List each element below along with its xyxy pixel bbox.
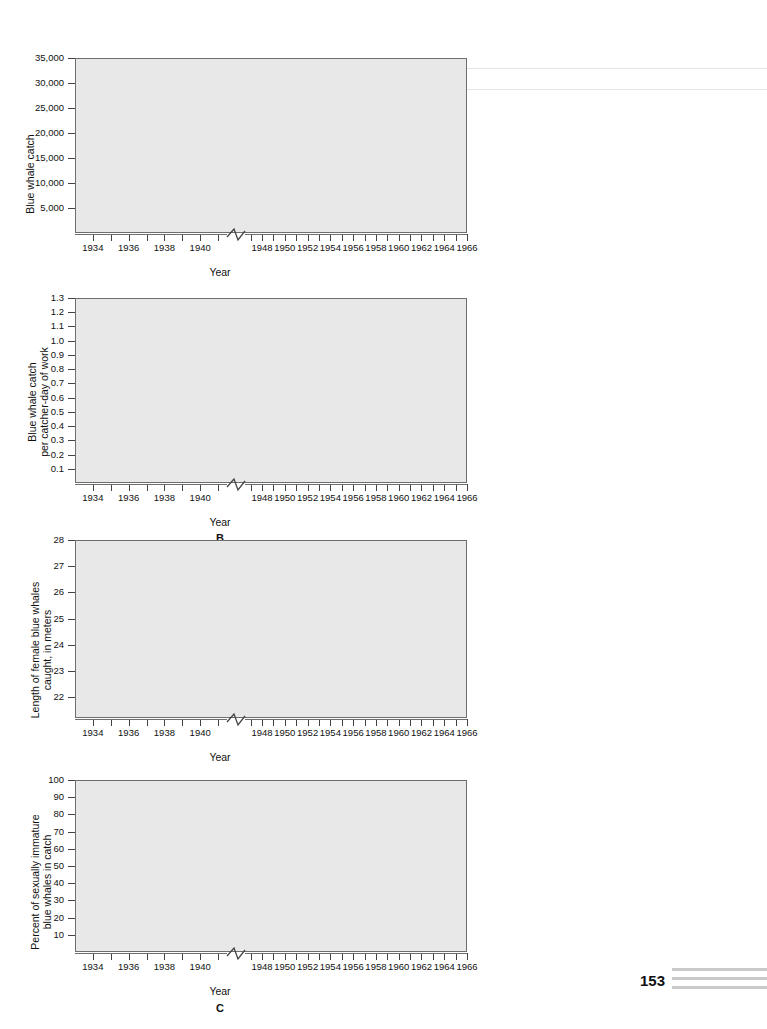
x-tick (308, 234, 309, 241)
y-tick-label: 40 (0, 878, 64, 888)
y-tick-label: 0.2 (0, 450, 64, 460)
x-tick-label-1966: 1966 (451, 493, 483, 503)
x-tick (433, 484, 434, 491)
x-tick (147, 234, 148, 241)
x-tick (433, 953, 434, 960)
x-tick (111, 719, 112, 726)
y-tick (68, 935, 75, 936)
x-tick (353, 484, 354, 491)
y-tick-label: 1.2 (0, 307, 64, 317)
y-tick (68, 208, 75, 209)
x-tick (164, 953, 165, 960)
figure-page: Blue whale catch 5,00010,00015,00020,000… (0, 0, 767, 1029)
x-tick (410, 484, 411, 491)
y-tick (68, 369, 75, 370)
y-tick (68, 883, 75, 884)
y-tick (68, 619, 75, 620)
y-tick-label: 15,000 (0, 153, 64, 163)
x-tick (330, 719, 331, 726)
y-tick (68, 900, 75, 901)
x-tick (111, 484, 112, 491)
y-tick-label: 24 (0, 640, 64, 650)
y-tick (68, 412, 75, 413)
y-tick (68, 312, 75, 313)
chart-panel-catch-per-catcher-day: Blue whale catch per catcher-day of work… (0, 298, 500, 543)
x-tick-label-1936: 1936 (113, 493, 145, 503)
y-tick (68, 341, 75, 342)
chart-panel-female-length: Length of female blue whales caught, in … (0, 540, 500, 785)
x-axis-break-icon (227, 228, 249, 242)
x-tick (251, 719, 252, 726)
x-tick (182, 953, 183, 960)
y-tick (68, 183, 75, 184)
x-tick (342, 953, 343, 960)
y-tick-label: 90 (0, 792, 64, 802)
panel-c-x-axis-title: Year (180, 985, 260, 997)
x-tick (410, 953, 411, 960)
x-tick (319, 719, 320, 726)
chart-panel-blue-whale-catch: Blue whale catch 5,00010,00015,00020,000… (0, 58, 500, 303)
x-tick (273, 234, 274, 241)
x-tick (342, 484, 343, 491)
scan-artifact-line-1 (462, 68, 767, 69)
y-tick-label: 80 (0, 809, 64, 819)
x-tick (111, 953, 112, 960)
x-tick (365, 234, 366, 241)
x-tick-label-1938: 1938 (148, 728, 180, 738)
x-axis-line-right (245, 953, 467, 954)
x-tick (129, 484, 130, 491)
y-tick-label: 27 (0, 561, 64, 571)
x-axis-line-left (75, 484, 227, 485)
x-tick (410, 719, 411, 726)
x-tick (273, 719, 274, 726)
panel-b-x-axis-title: Year (180, 516, 260, 528)
y-tick-label: 0.4 (0, 421, 64, 431)
x-tick (353, 953, 354, 960)
x-tick (164, 719, 165, 726)
x-tick (93, 953, 94, 960)
x-tick-label-1940: 1940 (184, 962, 216, 972)
x-tick (319, 234, 320, 241)
y-tick-label: 25 (0, 614, 64, 624)
x-tick (218, 484, 219, 491)
x-tick (262, 953, 263, 960)
x-tick (376, 484, 377, 491)
x-tick (365, 484, 366, 491)
x-axis-break-icon (227, 947, 249, 961)
x-tick (421, 234, 422, 241)
x-tick-label-1934: 1934 (77, 243, 109, 253)
x-tick (387, 234, 388, 241)
y-tick-label: 20 (0, 913, 64, 923)
x-tick-label-1966: 1966 (451, 728, 483, 738)
x-axis-line-left (75, 234, 227, 235)
x-tick (399, 719, 400, 726)
x-tick-label-1936: 1936 (113, 728, 145, 738)
y-tick (68, 671, 75, 672)
page-number: 153 (640, 972, 665, 989)
x-tick (308, 484, 309, 491)
panel-b-plot-area (75, 298, 467, 483)
x-axis-break-icon (227, 713, 249, 727)
x-tick (308, 953, 309, 960)
panel-a-x-axis-title: Year (180, 266, 260, 278)
x-tick (129, 234, 130, 241)
x-tick (262, 719, 263, 726)
x-tick (456, 484, 457, 491)
x-tick (182, 234, 183, 241)
x-tick (218, 953, 219, 960)
y-tick (68, 566, 75, 567)
panel-a-plot-area (75, 58, 467, 233)
x-tick (456, 953, 457, 960)
x-tick (387, 484, 388, 491)
page-rule-1 (672, 968, 767, 971)
x-tick (251, 234, 252, 241)
y-tick-label: 0.5 (0, 407, 64, 417)
x-tick (365, 719, 366, 726)
y-tick-label: 0.9 (0, 350, 64, 360)
panel-a-y-axis-title: Blue whale catch (24, 104, 36, 244)
y-tick-label: 0.7 (0, 378, 64, 388)
y-tick (68, 158, 75, 159)
x-tick (200, 719, 201, 726)
x-tick (285, 719, 286, 726)
y-tick (68, 645, 75, 646)
